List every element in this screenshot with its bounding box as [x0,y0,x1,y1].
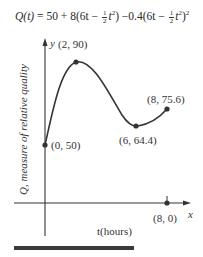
point-8-0 [164,200,169,205]
point-6-64 [133,123,138,128]
point-0-50 [42,142,47,147]
label-8-75: (8, 75.6) [147,93,185,106]
point-2-90 [73,59,78,64]
x-axis-letter: x [187,208,193,220]
point-8-75 [164,106,169,111]
label-0-50: (0, 50) [51,139,81,152]
x-axis-arrow-icon [183,201,191,206]
y-axis-arrow-icon [43,38,48,46]
label-2-90: (2, 90) [58,38,88,51]
y-axis-label: Q, measure of relative quality [17,64,29,195]
y-axis-letter: y [49,37,55,49]
chart-canvas: y x (0, 50) (2, 90) (6, 64.4) (8, 75.6) … [0,0,203,257]
label-6-64: (6, 64.4) [119,134,157,147]
decorative-bar [14,246,134,250]
x-axis-label: t(hours) [97,225,132,237]
label-8-0: (8, 0) [153,212,177,225]
